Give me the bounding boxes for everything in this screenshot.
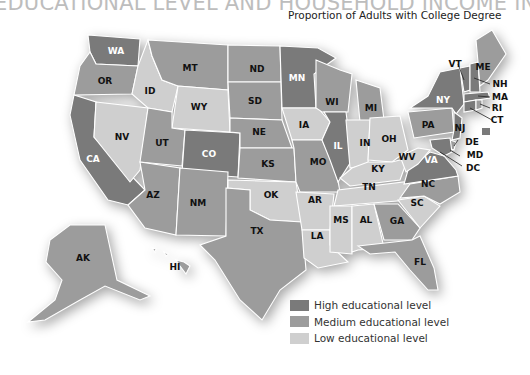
label-pa: PA xyxy=(422,120,435,130)
label-dc: DC xyxy=(466,163,480,173)
label-sc: SC xyxy=(410,198,423,208)
legend-swatch-low xyxy=(290,333,309,344)
state-ny xyxy=(410,68,464,114)
legend-label-medium: Medium educational level xyxy=(314,316,449,328)
legend-swatch-high xyxy=(290,300,309,311)
label-ri: RI xyxy=(492,103,502,113)
state-dc xyxy=(482,128,490,135)
label-az: AZ xyxy=(146,190,160,200)
label-de: DE xyxy=(465,137,479,147)
label-in: IN xyxy=(360,138,371,148)
label-ca: CA xyxy=(86,154,100,164)
label-tn: TN xyxy=(362,182,376,192)
label-co: CO xyxy=(202,149,217,159)
state-mi xyxy=(356,80,384,122)
label-ma: MA xyxy=(492,92,508,102)
label-va: VA xyxy=(424,155,437,165)
label-nv: NV xyxy=(115,132,130,142)
label-nh: NH xyxy=(492,79,507,89)
state-ms xyxy=(330,206,352,254)
label-al: AL xyxy=(360,215,373,225)
label-ny: NY xyxy=(436,95,451,105)
label-ut: UT xyxy=(155,138,169,148)
label-ok: OK xyxy=(264,190,280,200)
label-hi: HI xyxy=(170,262,181,272)
label-ks: KS xyxy=(261,159,274,169)
label-fl: FL xyxy=(414,257,426,267)
label-ne: NE xyxy=(252,127,266,137)
label-il: IL xyxy=(333,141,342,151)
label-wy: WY xyxy=(191,102,208,112)
label-wa: WA xyxy=(108,46,125,56)
label-mo: MO xyxy=(310,157,327,167)
label-md: MD xyxy=(467,150,483,160)
label-ak: AK xyxy=(76,253,91,263)
legend-item-high: High educational level xyxy=(290,297,449,314)
label-vt: VT xyxy=(448,59,462,69)
label-ky: KY xyxy=(371,164,385,174)
label-la: LA xyxy=(311,231,324,241)
label-ar: AR xyxy=(308,195,322,205)
label-ia: IA xyxy=(299,120,309,130)
label-wv: WV xyxy=(399,152,416,162)
state-ak xyxy=(28,225,150,322)
label-nc: NC xyxy=(421,179,436,189)
state-ri xyxy=(476,100,482,110)
legend-label-high: High educational level xyxy=(314,299,431,311)
label-mt: MT xyxy=(182,63,198,73)
label-mi: MI xyxy=(365,103,377,113)
label-tx: TX xyxy=(250,226,263,236)
label-ms: MS xyxy=(333,215,348,225)
label-oh: OH xyxy=(381,134,396,144)
label-nd: ND xyxy=(249,64,264,74)
label-nm: NM xyxy=(190,198,207,208)
legend-item-medium: Medium educational level xyxy=(290,314,449,331)
label-me: ME xyxy=(475,62,490,72)
label-ct: CT xyxy=(491,115,505,125)
label-nj: NJ xyxy=(455,123,466,133)
state-me xyxy=(476,30,506,86)
legend-item-low: Low educational level xyxy=(290,330,449,347)
label-ga: GA xyxy=(390,216,404,226)
label-or: OR xyxy=(98,76,113,86)
legend-label-low: Low educational level xyxy=(314,332,428,344)
label-id: ID xyxy=(145,86,156,96)
legend: High educational level Medium educationa… xyxy=(290,297,449,347)
legend-swatch-medium xyxy=(290,316,309,327)
us-map: WA OR CA NV ID MT WY UT CO AZ NM ND SD N… xyxy=(0,0,530,375)
label-sd: SD xyxy=(248,96,262,106)
label-wi: WI xyxy=(325,97,338,107)
label-mn: MN xyxy=(289,73,306,83)
